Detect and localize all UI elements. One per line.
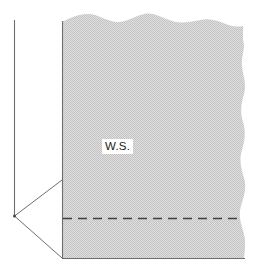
water-surface-label: W.S. [102,139,133,154]
shaded-section-body [58,10,250,262]
diagram-canvas: W.S. [0,0,259,278]
apex-vertex [13,214,16,217]
lower-wedge-line [15,216,63,258]
upper-wedge-line [15,180,63,216]
